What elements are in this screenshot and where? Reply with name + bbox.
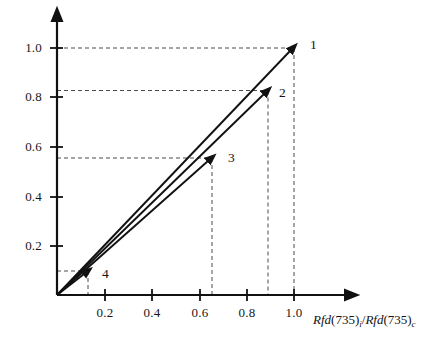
- x-axis-title: Rfd(735)i/Rfd(735)c: [313, 312, 416, 328]
- y-tick-label-0.6: 0.6: [4, 139, 42, 155]
- x-tick-label-0.6: 0.6: [180, 305, 220, 321]
- chart-figure: 1.0 0.8 0.6 0.4 0.2 0.2 0.4 0.6 0.8 1.0 …: [0, 0, 433, 341]
- x-tick-label-0.4: 0.4: [132, 305, 172, 321]
- x-axis-title-denominator-paren: (735): [383, 312, 411, 327]
- annotation-series-4: 4: [102, 266, 109, 282]
- x-tick-label-0.2: 0.2: [85, 305, 125, 321]
- x-axis-title-numerator-symbol: Rfd: [313, 312, 331, 327]
- annotation-series-1: 1: [310, 37, 317, 53]
- x-axis-title-numerator-paren: (735): [331, 312, 359, 327]
- vector-series-2: [57, 94, 264, 295]
- vector-series-4: [57, 274, 84, 295]
- x-axis-title-denominator-subscript: c: [412, 319, 416, 329]
- y-tick-label-0.2: 0.2: [4, 238, 42, 254]
- chart-plot-area: [0, 0, 433, 341]
- x-tick-label-0.8: 0.8: [227, 305, 267, 321]
- data-vectors: [57, 51, 290, 295]
- x-axis-title-numerator-subscript: i: [359, 319, 362, 329]
- x-tick-label-1.0: 1.0: [274, 305, 314, 321]
- guide-lines-horizontal: [57, 48, 294, 271]
- y-tick-label-0.8: 0.8: [4, 89, 42, 105]
- x-axis-title-denominator-symbol: Rfd: [365, 312, 383, 327]
- guide-lines-vertical: [88, 48, 294, 295]
- vector-series-3: [57, 161, 208, 295]
- y-tick-label-0.4: 0.4: [4, 189, 42, 205]
- y-tick-label-1.0: 1.0: [4, 40, 42, 56]
- annotation-series-2: 2: [279, 85, 286, 101]
- vector-series-1: [57, 51, 290, 295]
- annotation-series-3: 3: [228, 150, 235, 166]
